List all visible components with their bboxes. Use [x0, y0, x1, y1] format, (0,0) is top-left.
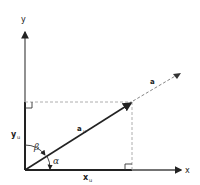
unit-vector-au — [25, 103, 131, 170]
alpha-label: α — [53, 156, 59, 166]
beta-label: β — [33, 142, 39, 152]
y-component-subscript: u — [17, 134, 20, 140]
extended-vector-a — [133, 75, 177, 101]
vector-a-arrowhead — [173, 73, 181, 79]
extended-vector-label: a — [150, 78, 155, 86]
y-axis-label: y — [21, 15, 26, 24]
vector-diagram: y x a u a y u x u β α — [0, 0, 200, 185]
x-component-subscript: u — [89, 177, 92, 183]
alpha-angle-arc — [47, 156, 50, 169]
right-angle-marker-y — [25, 102, 32, 108]
unit-vector-label: a — [77, 125, 82, 133]
x-axis-label: x — [185, 166, 190, 175]
unit-vector-subscript: u — [83, 128, 86, 134]
